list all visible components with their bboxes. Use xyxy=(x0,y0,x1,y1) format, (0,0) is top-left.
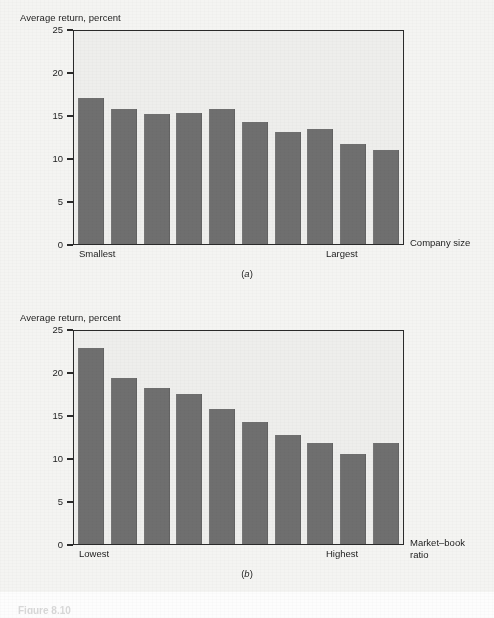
bar xyxy=(242,122,268,244)
x-axis-title-line-b-1: ratio xyxy=(410,549,465,561)
y-axis-tick-label: 5 xyxy=(58,496,63,508)
chart-panel-b: Average return, percent 0510152025 Lowes… xyxy=(0,312,494,595)
y-axis-title-b: Average return, percent xyxy=(20,312,121,323)
bar xyxy=(111,378,137,544)
bar xyxy=(340,144,366,244)
figure-caption: Figure 8.10 xyxy=(18,605,71,614)
panel-caption-a-close: ) xyxy=(250,268,253,279)
x-axis-title-b: Market–book ratio xyxy=(410,537,465,560)
y-axis-tick-label: 0 xyxy=(58,539,63,551)
x-axis-end-label-b: Highest xyxy=(326,548,358,559)
bar xyxy=(176,394,202,544)
panel-caption-b-close: ) xyxy=(250,568,253,579)
bar xyxy=(275,435,301,544)
y-axis-tick-label: 15 xyxy=(52,110,63,122)
x-axis-title-line-a-0: Company size xyxy=(410,237,470,249)
y-axis-tick-label: 25 xyxy=(52,24,63,36)
bar-series-b xyxy=(74,331,403,544)
x-axis-end-label-a: Largest xyxy=(326,248,358,259)
bar xyxy=(209,109,235,244)
y-axis-ticks-a: 0510152025 xyxy=(0,30,73,245)
bar xyxy=(111,109,137,244)
y-axis-title-a: Average return, percent xyxy=(20,12,121,23)
bar xyxy=(78,98,104,244)
bar xyxy=(373,150,399,244)
bar xyxy=(144,114,170,244)
y-axis-tick-label: 10 xyxy=(52,153,63,165)
bar xyxy=(373,443,399,544)
plot-area-a xyxy=(73,30,404,245)
x-axis-title-a: Company size xyxy=(410,237,470,249)
bar xyxy=(307,129,333,244)
y-axis-tick-label: 25 xyxy=(52,324,63,336)
y-axis-tick-label: 10 xyxy=(52,453,63,465)
panel-caption-a: (a) xyxy=(0,268,494,279)
y-axis-tick-label: 20 xyxy=(52,67,63,79)
y-axis-tick-label: 5 xyxy=(58,196,63,208)
y-axis-tick-label: 15 xyxy=(52,410,63,422)
bar xyxy=(209,409,235,544)
x-axis-start-label-b: Lowest xyxy=(79,548,109,559)
bar xyxy=(144,388,170,544)
x-axis-title-line-b-0: Market–book xyxy=(410,537,465,549)
figure-page: Average return, percent 0510152025 Small… xyxy=(0,0,494,618)
page-bottom-margin xyxy=(0,592,494,618)
bar xyxy=(340,454,366,544)
panel-caption-b: (b) xyxy=(0,568,494,579)
bar xyxy=(307,443,333,544)
bar xyxy=(275,132,301,244)
bar xyxy=(78,348,104,544)
x-axis-start-label-a: Smallest xyxy=(79,248,115,259)
chart-panel-a: Average return, percent 0510152025 Small… xyxy=(0,12,494,297)
bar xyxy=(176,113,202,244)
y-axis-tick-label: 0 xyxy=(58,239,63,251)
y-axis-ticks-b: 0510152025 xyxy=(0,330,73,545)
bar-series-a xyxy=(74,31,403,244)
y-axis-tick-label: 20 xyxy=(52,367,63,379)
bar xyxy=(242,422,268,544)
plot-area-b xyxy=(73,330,404,545)
